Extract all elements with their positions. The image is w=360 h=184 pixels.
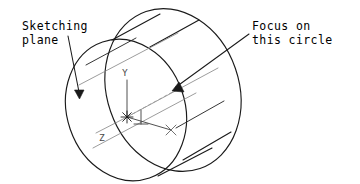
focus-circle-leader bbox=[172, 34, 249, 92]
y-axis-label: Y bbox=[122, 67, 128, 78]
focus-circle-label-line1: Focus on bbox=[252, 19, 333, 33]
figure-root: Y Z Sketching plane Focus on this circle bbox=[0, 0, 360, 184]
z-axis-label: Z bbox=[99, 132, 105, 143]
sketching-plane-label-line2: plane bbox=[22, 33, 88, 47]
focus-circle-annotation: Focus on this circle bbox=[252, 19, 333, 47]
x-axis-endpoint-marker bbox=[166, 125, 176, 135]
sketching-plane-label-line1: Sketching bbox=[22, 19, 88, 33]
cylinder-body bbox=[86, 14, 231, 176]
z-axis bbox=[96, 117, 127, 133]
focus-circle-label-line2: this circle bbox=[252, 33, 333, 47]
coordinate-axes bbox=[96, 80, 178, 135]
x-axis bbox=[127, 117, 171, 130]
sketching-plane-annotation: Sketching plane bbox=[22, 19, 88, 47]
origin-marker bbox=[121, 111, 133, 123]
